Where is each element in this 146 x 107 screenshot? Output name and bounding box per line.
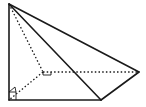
edge-base-front-base-right [101,72,139,100]
pyramid-diagram [0,0,146,107]
right-angle-marker-base-left [9,87,16,100]
hidden-edge-back-left [9,72,43,100]
hidden-edge-apex-back [9,4,43,72]
pyramid-figure [0,0,146,107]
edge-apex-base-right [9,4,139,72]
edge-apex-base-front [9,4,101,100]
